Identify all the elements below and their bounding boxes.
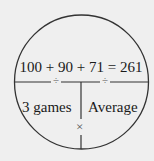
divide-symbol-left: ÷	[51, 74, 61, 86]
equation-total: 100 + 90 + 71 = 261	[0, 59, 154, 76]
divide-symbol-right: ÷	[100, 74, 110, 86]
games-count-label: 3 games	[22, 99, 72, 116]
multiply-symbol: ×	[75, 119, 84, 135]
average-label: Average	[88, 99, 138, 116]
pie-diagram	[0, 0, 154, 161]
